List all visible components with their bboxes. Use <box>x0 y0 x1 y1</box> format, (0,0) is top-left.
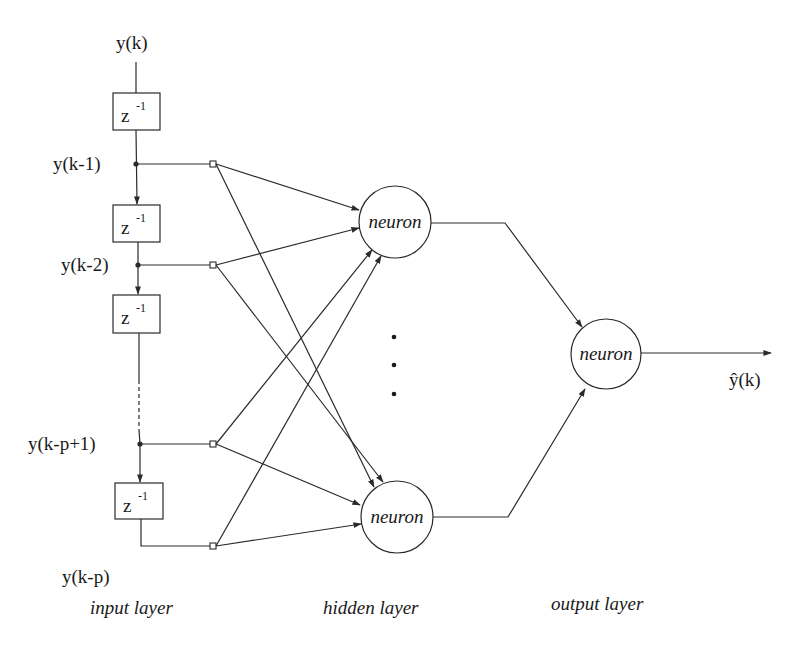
neuron-label: neuron <box>579 343 632 364</box>
hidden-layer: neuron neuron <box>359 186 433 553</box>
weight-connection <box>431 223 582 327</box>
delay-exponent: -1 <box>136 99 146 113</box>
delay-z: z <box>121 105 129 126</box>
delay-exponent: -1 <box>136 211 146 225</box>
weight-connection <box>433 389 585 517</box>
hidden-ellipsis <box>392 335 397 397</box>
weight-connection <box>216 256 381 546</box>
output-label: ŷ(k) <box>729 369 761 391</box>
delay-z: z <box>123 495 131 516</box>
hidden-output-connections <box>431 223 585 517</box>
delay-line-segment <box>136 130 137 204</box>
layer-captions: input layer hidden layer output layer <box>90 593 644 618</box>
delay-z: z <box>121 307 129 328</box>
input-node-2 <box>210 262 216 268</box>
delay-block-2: z -1 <box>113 205 160 242</box>
delay-exponent: -1 <box>138 489 148 503</box>
delay-exponent: -1 <box>136 301 146 315</box>
input-layer-nodes <box>210 161 216 549</box>
output-neuron: neuron <box>571 319 641 389</box>
weight-connection <box>216 524 361 546</box>
delay-z: z <box>121 217 129 238</box>
ellipsis-dot <box>392 335 397 340</box>
input-node-3 <box>210 441 216 447</box>
weight-connection <box>216 250 372 444</box>
output-layer: neuron ŷ(k) <box>571 319 771 391</box>
weight-connection <box>216 444 360 505</box>
tap-line-4 <box>141 519 210 546</box>
weight-connection <box>216 164 359 210</box>
delay-block-3: z -1 <box>113 295 160 333</box>
tap-label-4: y(k-p) <box>62 566 109 588</box>
delay-block-1: z -1 <box>113 93 160 130</box>
hidden-neuron-2: neuron <box>361 481 433 553</box>
tap-label-1: y(k-1) <box>53 153 100 175</box>
tap-label-3: y(k-p+1) <box>28 433 96 455</box>
caption-hidden-layer: hidden layer <box>323 597 419 618</box>
caption-output-layer: output layer <box>551 593 644 614</box>
input-signal-label: y(k) <box>116 32 148 54</box>
neuron-label: neuron <box>368 211 421 232</box>
ellipsis-dot <box>392 363 397 368</box>
input-node-4 <box>210 543 216 549</box>
input-hidden-connections <box>216 164 383 546</box>
delay-block-4: z -1 <box>115 483 163 519</box>
neuron-label: neuron <box>370 506 423 527</box>
ellipsis-dot <box>392 392 397 397</box>
input-node-1 <box>210 161 216 167</box>
tapped-delay-line: y(k) z -1 y(k-1) z -1 y(k-2) z -1 <box>28 32 210 588</box>
neural-network-diagram: y(k) z -1 y(k-1) z -1 y(k-2) z -1 <box>0 0 798 653</box>
caption-input-layer: input layer <box>90 597 173 618</box>
tap-label-2: y(k-2) <box>61 254 108 276</box>
weight-connection <box>216 228 359 265</box>
hidden-neuron-1: neuron <box>359 186 431 258</box>
